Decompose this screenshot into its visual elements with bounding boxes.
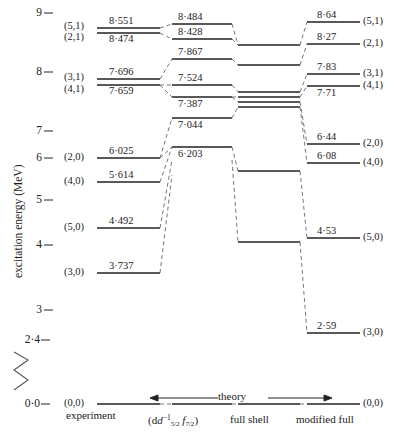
exp-jpi-5: (4,0) <box>64 176 84 187</box>
axis-tick-3: 3 <box>16 304 42 316</box>
exp-energy-0: 8·551 <box>109 16 134 27</box>
exp-jpi-0: (5,1) <box>64 21 84 32</box>
modfull-energy-2: 7·83 <box>317 62 336 73</box>
modfull-jpi-5: (4,0) <box>363 157 383 168</box>
d1f-suffix: ) <box>194 414 198 426</box>
d1f-energy-4: 7·387 <box>178 99 203 110</box>
d1f-energy-3: 7·524 <box>178 73 203 84</box>
exp-jpi-1: (2,1) <box>64 32 84 43</box>
modfull-energy-0: 8·64 <box>317 10 336 21</box>
exp-jpi-4: (2,0) <box>64 152 84 163</box>
column-label-modified-full: modified full <box>296 414 354 425</box>
d1f-energy-2: 7·867 <box>178 47 203 58</box>
axis-tick-7: 7 <box>16 125 42 137</box>
modfull-energy-7: 2·59 <box>317 321 336 332</box>
exp-energy-1: 8·474 <box>109 34 134 45</box>
y-axis-title: excitation energy (MeV) <box>12 165 24 278</box>
modfull-energy-4: 6·44 <box>317 132 336 143</box>
modfull-jpi-0: (5,1) <box>363 16 383 27</box>
column-label-d1f: (dd−15/2 f7/2) <box>148 414 198 428</box>
d1f-prefix: (d <box>148 414 157 426</box>
exp-energy-2: 7·696 <box>109 67 134 78</box>
exp-energy-3: 7·659 <box>109 86 134 97</box>
exp-energy-7: 3·737 <box>109 261 134 272</box>
d1f-energy-0: 8·484 <box>178 12 203 23</box>
column-label-theory: theory <box>218 391 246 402</box>
exp-energy-4: 6·025 <box>109 146 134 157</box>
connectors-fullshell-to-modified <box>300 22 307 404</box>
d1f-energy-5: 7·044 <box>178 120 203 131</box>
exp-energy-5: 5·614 <box>109 170 134 181</box>
connectors-d1f-to-fullshell <box>232 24 238 404</box>
modfull-jpi-7: (3,0) <box>363 327 383 338</box>
axis-tick-6: 6 <box>16 152 42 164</box>
axis-break-zigzag <box>14 352 28 390</box>
full-shell-levels <box>238 45 300 404</box>
modfull-jpi-8: (0,0) <box>363 398 383 409</box>
d1f-superscript: −1 <box>163 413 171 422</box>
modfull-energy-6: 4·53 <box>317 226 336 237</box>
d1f-subscript-1: 5/2 <box>171 420 180 428</box>
exp-jpi-6: (5,0) <box>64 222 84 233</box>
connectors-exp-to-d1f <box>160 24 172 404</box>
column-label-experiment: experiment <box>66 410 115 421</box>
axis-ticks <box>41 13 53 404</box>
modfull-jpi-2: (3,1) <box>363 68 383 79</box>
axis-tick-9: 9 <box>16 7 42 19</box>
column-label-full-shell: full shell <box>230 414 269 425</box>
d1f-energy-6: 6·203 <box>178 149 203 160</box>
modfull-energy-5: 6·08 <box>317 151 336 162</box>
modfull-jpi-1: (2,1) <box>363 38 383 49</box>
axis-tick-8: 8 <box>16 66 42 78</box>
modfull-jpi-3: (4,1) <box>363 80 383 91</box>
exp-energy-6: 4·492 <box>109 216 134 227</box>
exp-jpi-2: (3,1) <box>64 72 84 83</box>
exp-jpi-7: (3,0) <box>64 267 84 278</box>
modified-full-levels <box>307 22 360 404</box>
exp-jpi-8: (0,0) <box>64 398 84 409</box>
modfull-jpi-4: (2,0) <box>363 138 383 149</box>
modfull-jpi-6: (5,0) <box>363 232 383 243</box>
d1f-energy-1: 8·428 <box>178 27 203 38</box>
exp-jpi-3: (4,1) <box>64 84 84 95</box>
modfull-energy-1: 8·27 <box>317 32 336 43</box>
modfull-energy-3: 7·71 <box>317 88 336 99</box>
axis-tick-0-0: 0·0 <box>8 398 40 410</box>
axis-tick-2-4: 2·4 <box>8 334 40 346</box>
